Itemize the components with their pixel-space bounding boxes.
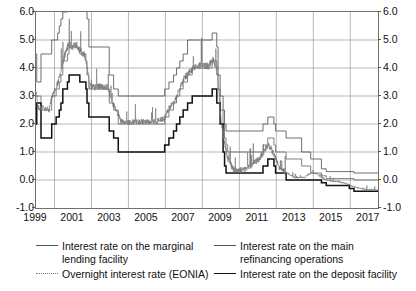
y-tick-label-right: 6.0 (383, 6, 398, 17)
y-tick-mark (32, 151, 35, 152)
legend-label: Interest rate on the main refinancing op… (240, 240, 404, 265)
legend-line-icon (36, 273, 58, 274)
legend-label: Interest rate on the deposit facility (240, 268, 397, 281)
legend-item: Interest rate on the main refinancing op… (214, 240, 404, 265)
y-tick-mark (32, 179, 35, 180)
y-tick-mark (378, 123, 381, 124)
y-tick-label-right: 2.0 (383, 118, 398, 129)
x-tick-label: 2017 (356, 212, 379, 223)
y-tick-mark (378, 179, 381, 180)
x-tick-label: 2009 (208, 212, 231, 223)
x-tick-label: 2007 (171, 212, 194, 223)
x-tick-label: 2005 (134, 212, 157, 223)
y-tick-mark (378, 39, 381, 40)
legend-swatch-icon (214, 240, 236, 251)
x-tick-label: 2003 (97, 212, 120, 223)
y-tick-mark (32, 95, 35, 96)
series-line-2 (36, 75, 378, 191)
legend-item: Interest rate on the marginal lending fa… (36, 240, 211, 265)
y-tick-label-right: 1.0 (383, 146, 398, 157)
legend-swatch-icon (214, 268, 236, 279)
x-tick-label: 2011 (246, 212, 269, 223)
legend-item: Interest rate on the deposit facility (214, 268, 409, 281)
y-tick-mark (378, 11, 381, 12)
x-tick-label: 2013 (282, 212, 305, 223)
y-tick-mark (378, 151, 381, 152)
chart-area: 6.05.04.03.02.01.00.0-1.0 6.05.04.03.02.… (0, 0, 416, 236)
legend-label: Interest rate on the marginal lending fa… (62, 240, 211, 265)
legend-swatch-icon (36, 268, 58, 279)
legend-item: Overnight interest rate (EONIA) (36, 268, 211, 281)
x-tick-label: 2015 (319, 212, 342, 223)
plot-canvas (36, 12, 378, 208)
y-tick-label-right: 0.0 (383, 174, 398, 185)
y-tick-mark (378, 207, 381, 208)
legend-line-icon (214, 245, 236, 246)
series-line-3 (36, 19, 378, 191)
y-tick-mark (378, 67, 381, 68)
y-tick-mark (32, 67, 35, 68)
legend-line-icon (214, 273, 236, 274)
chart-legend: Interest rate on the marginal lending fa… (0, 238, 416, 291)
y-tick-label-right: 5.0 (383, 34, 398, 45)
y-tick-mark (378, 95, 381, 96)
plot-frame (35, 11, 379, 209)
legend-line-icon (36, 245, 58, 246)
y-tick-label-right: -1.0 (383, 202, 401, 213)
legend-label: Overnight interest rate (EONIA) (62, 268, 208, 281)
x-tick-label: 2001 (60, 212, 83, 223)
y-tick-mark (32, 123, 35, 124)
chart-page: 6.05.04.03.02.01.00.0-1.0 6.05.04.03.02.… (0, 0, 416, 291)
y-tick-mark (32, 207, 35, 208)
y-tick-mark (32, 39, 35, 40)
y-tick-mark (32, 11, 35, 12)
legend-swatch-icon (36, 240, 58, 251)
y-tick-label-right: 3.0 (383, 90, 398, 101)
y-tick-label-right: 4.0 (383, 62, 398, 73)
x-tick-label: 1999 (23, 212, 46, 223)
